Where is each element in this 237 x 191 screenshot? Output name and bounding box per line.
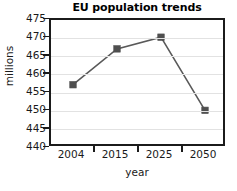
data-point-marker (114, 46, 121, 53)
x-tick-label: 2004 (47, 149, 95, 160)
gridline (51, 38, 223, 39)
y-tick-label: 450 (6, 104, 46, 115)
gridline (51, 74, 223, 75)
y-tick-label: 465 (6, 50, 46, 61)
y-tick-label: 475 (6, 13, 46, 24)
chart-container: EU population trends millions 4404454504… (0, 0, 237, 191)
x-tick-label: 2015 (91, 149, 139, 160)
x-tick-mark (93, 146, 95, 152)
x-axis-label: year (49, 166, 225, 178)
plot-area (49, 18, 225, 146)
gridline (51, 56, 223, 57)
y-tick-label: 445 (6, 123, 46, 134)
gridline (51, 93, 223, 94)
y-tick-label: 470 (6, 31, 46, 42)
chart-title: EU population trends (49, 1, 225, 14)
x-tick-label: 2050 (179, 149, 227, 160)
y-tick-label: 440 (6, 141, 46, 152)
x-tick-mark (181, 146, 183, 152)
data-point-marker (70, 81, 77, 88)
x-tick-mark (137, 146, 139, 152)
y-tick-label: 460 (6, 68, 46, 79)
gridline (51, 111, 223, 112)
x-tick-label: 2025 (135, 149, 183, 160)
plot-inner (51, 20, 223, 144)
gridline (51, 129, 223, 130)
y-tick-label: 455 (6, 86, 46, 97)
